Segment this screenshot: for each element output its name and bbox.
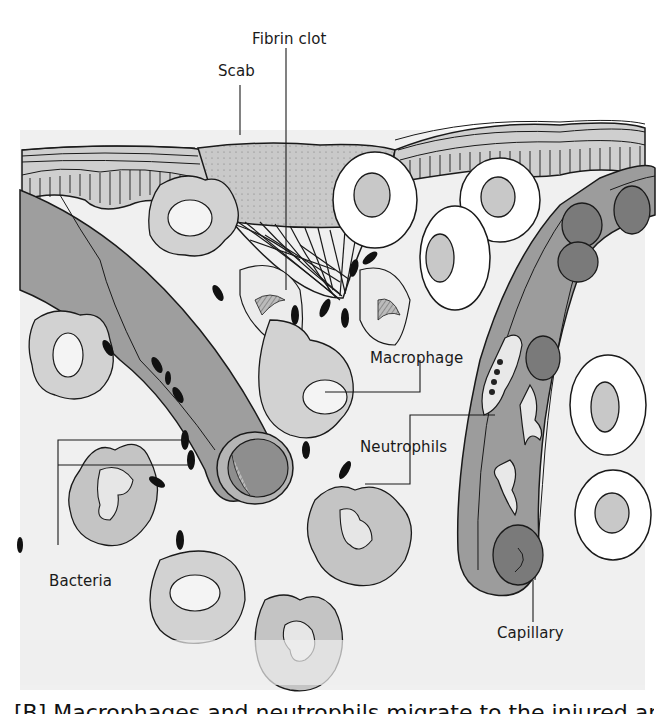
illustration-canvas [0,0,664,698]
label-capillary: Capillary [497,624,564,642]
bacterium [302,441,310,459]
label-bacteria: Bacteria [49,572,112,590]
red-blood-cell [562,203,602,247]
red-blood-cell [526,336,560,380]
figure-caption: [B] Macrophages and neutrophils migrate … [14,698,654,714]
red-blood-cell [558,242,598,282]
bacterium [187,450,195,470]
label-neutrophils: Neutrophils [360,438,447,456]
label-macrophage: Macrophage [370,349,463,367]
bacterium [165,371,171,385]
wound-healing-figure: Fibrin clot Scab Macrophage Neutrophils … [0,0,664,714]
bacterium [176,530,184,550]
label-scab: Scab [218,62,255,80]
label-fibrin-clot: Fibrin clot [252,30,326,48]
bacterium [341,308,349,328]
bacterium [291,305,299,325]
red-blood-cell [493,525,543,585]
bacterium [17,537,23,553]
red-blood-cell [614,186,650,234]
